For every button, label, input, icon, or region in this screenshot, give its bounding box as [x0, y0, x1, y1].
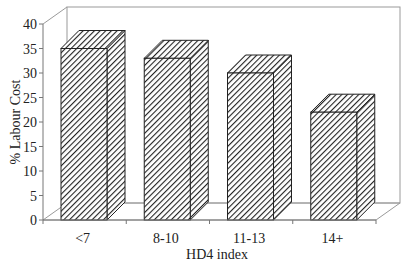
- bar: [144, 40, 208, 220]
- x-category-label: 8-10: [153, 231, 179, 246]
- y-tick-label: 35: [23, 42, 37, 57]
- y-tick-label: 40: [23, 17, 37, 32]
- y-axis-title: % Labour Cost: [8, 80, 23, 165]
- bar: [311, 94, 375, 220]
- y-tick-label: 20: [23, 115, 37, 130]
- bar: [228, 55, 292, 220]
- y-tick-label: 10: [23, 164, 37, 179]
- y-tick-label: 0: [30, 213, 37, 228]
- bar-chart: 0510152025303540 <78-1011-1314+ % Labour…: [0, 0, 406, 267]
- left-wall-top-edge: [43, 7, 67, 24]
- x-category-label: 11-13: [233, 231, 265, 246]
- x-category-label: <7: [75, 231, 90, 246]
- x-category-label: 14+: [321, 231, 343, 246]
- bar: [61, 31, 125, 221]
- x-axis-title: HD4 index: [186, 247, 248, 262]
- y-tick-label: 15: [23, 140, 37, 155]
- y-tick-label: 30: [23, 66, 37, 81]
- bar-series: [61, 31, 375, 221]
- y-axis: 0510152025303540: [23, 17, 43, 228]
- y-tick-label: 5: [30, 189, 37, 204]
- x-axis: <78-1011-1314+: [43, 220, 376, 246]
- y-tick-label: 25: [23, 91, 37, 106]
